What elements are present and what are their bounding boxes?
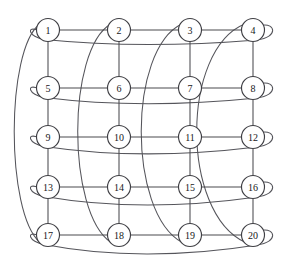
node-circle-15[interactable] [179, 176, 202, 199]
node-circle-17[interactable] [37, 224, 60, 247]
column-wrap-edge-4-20 [197, 24, 245, 242]
graph-node-15[interactable]: 15 [179, 176, 202, 199]
node-circle-16[interactable] [242, 176, 265, 199]
column-wrap-edge-2-18 [78, 24, 111, 242]
column-wrap-edge-3-19 [141, 24, 182, 242]
graph-node-6[interactable]: 6 [108, 77, 131, 100]
graph-node-14[interactable]: 14 [108, 176, 131, 199]
graph-node-4[interactable]: 4 [242, 19, 265, 42]
node-circle-2[interactable] [108, 19, 131, 42]
graph-node-17[interactable]: 17 [37, 224, 60, 247]
graph-node-13[interactable]: 13 [37, 176, 60, 199]
graph-node-12[interactable]: 12 [242, 126, 265, 149]
graph-node-9[interactable]: 9 [37, 126, 60, 149]
node-circle-7[interactable] [179, 77, 202, 100]
node-circle-20[interactable] [242, 224, 265, 247]
node-circle-8[interactable] [242, 77, 265, 100]
graph-node-1[interactable]: 1 [37, 19, 60, 42]
graph-node-10[interactable]: 10 [108, 126, 131, 149]
graph-node-18[interactable]: 18 [108, 224, 131, 247]
node-layer: 1234567891011121314151617181920 [37, 19, 265, 247]
row-wrap-edge-12-9 [30, 132, 272, 154]
graph-node-7[interactable]: 7 [179, 77, 202, 100]
torus-grid-figure: 1234567891011121314151617181920 [0, 0, 292, 262]
node-circle-11[interactable] [179, 126, 202, 149]
node-circle-18[interactable] [108, 224, 131, 247]
graph-node-8[interactable]: 8 [242, 77, 265, 100]
node-circle-1[interactable] [37, 19, 60, 42]
graph-node-5[interactable]: 5 [37, 77, 60, 100]
graph-node-11[interactable]: 11 [179, 126, 202, 149]
node-circle-13[interactable] [37, 176, 60, 199]
graph-node-16[interactable]: 16 [242, 176, 265, 199]
graph-node-19[interactable]: 19 [179, 224, 202, 247]
graph-canvas: 1234567891011121314151617181920 [0, 0, 292, 262]
row-wrap-edge-8-5 [30, 83, 272, 104]
row-wrap-edge-16-13 [30, 182, 272, 205]
node-circle-14[interactable] [108, 176, 131, 199]
graph-node-3[interactable]: 3 [179, 19, 202, 42]
node-circle-12[interactable] [242, 126, 265, 149]
row-wrap-edge-20-17 [30, 230, 272, 254]
node-circle-5[interactable] [37, 77, 60, 100]
node-circle-4[interactable] [242, 19, 265, 42]
node-circle-6[interactable] [108, 77, 131, 100]
graph-node-2[interactable]: 2 [108, 19, 131, 42]
edge-layer [48, 30, 253, 235]
row-wrap-edge-layer [30, 25, 272, 254]
node-circle-9[interactable] [37, 126, 60, 149]
node-circle-19[interactable] [179, 224, 202, 247]
node-circle-3[interactable] [179, 19, 202, 42]
column-wrap-edge-1-17 [14, 24, 40, 242]
graph-node-20[interactable]: 20 [242, 224, 265, 247]
node-circle-10[interactable] [108, 126, 131, 149]
